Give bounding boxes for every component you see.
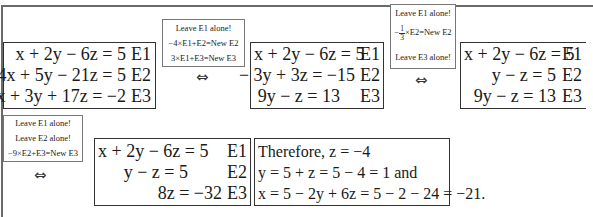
equation-label: E3: [360, 86, 380, 106]
equation-lhs: y − z = 5: [492, 65, 556, 85]
equation-lhs: x + 2y − 6z = 5: [98, 141, 208, 161]
operation-line: −4×E1+E2=New E2: [163, 38, 244, 49]
equation-label: E1: [360, 44, 380, 64]
equation-system-1: x + 2y − 6z = 5E1 4x + 5y − 21z = 5E2 −3…: [3, 42, 156, 109]
operation-line: Leave E2 alone!: [4, 133, 82, 144]
equation-label: E2: [360, 65, 380, 85]
equation-label: E2: [131, 64, 151, 86]
equation-label: E1: [227, 141, 247, 161]
equation-label: E3: [227, 183, 247, 203]
equation-lhs: x + 2y − 6z = 5: [254, 44, 364, 64]
equation-lhs: −3x + 3y + 17z = −2: [0, 85, 126, 107]
solution-line-x: x = 5 − 2y + 6z = 5 − 2 − 24 = −21.: [258, 183, 485, 204]
solution-box: Therefore, z = −4 y = 5 + z = 5 − 4 = 1 …: [254, 138, 450, 206]
equation-label: E3: [131, 85, 151, 107]
equation-lhs: 8z = −32: [158, 183, 222, 203]
equation-label: E1: [562, 44, 582, 64]
equation-system-2: x + 2y − 6z = 5 E1 − 3y + 3z = −15 E2 9y…: [250, 42, 384, 109]
equation-lhs: 9y − z = 13: [258, 86, 340, 106]
row-operation-box-1: Leave E1 alone! −4×E1+E2=New E2 3×E1+E3=…: [162, 19, 245, 67]
equation-lhs: y − z = 5: [124, 162, 188, 182]
operation-line: Leave E1 alone!: [391, 8, 455, 19]
operation-line: −9×E2+E3=New E3: [4, 148, 82, 159]
equation-system-4: x + 2y − 6z = 5 E1 y − z = 5 E2 8z = −32…: [94, 138, 251, 206]
operation-line-fraction: −13×E2=New E2: [391, 25, 455, 42]
equation-row: x + 2y − 6z = 5: [254, 43, 364, 65]
equation-label: E2: [562, 65, 582, 85]
equation-label: E3: [562, 86, 582, 106]
equation-label: E2: [227, 162, 247, 182]
operation-line: Leave E1 alone!: [4, 118, 82, 129]
row-operation-box-3: Leave E1 alone! Leave E2 alone! −9×E2+E3…: [3, 115, 83, 162]
equation-lhs: 4x + 5y − 21z = 5: [0, 64, 126, 86]
equation-lhs: 9y − z = 13: [474, 86, 556, 106]
equivalence-arrow-icon: ⇔: [415, 73, 428, 88]
solution-line-z: Therefore, z = −4: [258, 141, 370, 162]
operation-line: 3×E1+E3=New E3: [163, 53, 244, 64]
operation-line: Leave E3 alone!: [391, 52, 455, 63]
equation-lhs: − 3y + 3z = −15: [239, 65, 355, 85]
equation-system-3: x + 2y − 6z = 5 E1 y − z = 5 E2 9y − z =…: [460, 42, 586, 109]
equivalence-arrow-icon: ⇔: [34, 168, 47, 183]
equation-lhs: x + 2y − 6z = 5: [464, 44, 574, 64]
equation-lhs: x + 2y − 6z = 5: [16, 43, 126, 65]
row-operation-box-2: Leave E1 alone! −13×E2=New E2 Leave E3 a…: [390, 4, 456, 69]
equivalence-arrow-icon: ⇔: [196, 70, 209, 85]
equation-label: E1: [131, 43, 151, 65]
solution-line-y: y = 5 + z = 5 − 4 = 1 and: [258, 162, 417, 183]
operation-line: Leave E1 alone!: [163, 23, 244, 34]
